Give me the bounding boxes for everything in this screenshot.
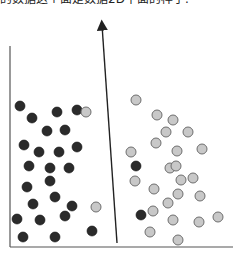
light-point xyxy=(172,146,182,156)
scatter-diagram xyxy=(0,0,247,256)
light-point xyxy=(183,127,193,137)
dark-point xyxy=(64,163,74,173)
dark-point xyxy=(87,226,97,236)
dark-point xyxy=(67,201,77,211)
dark-point xyxy=(42,126,52,136)
light-point xyxy=(195,191,205,201)
dark-class-points xyxy=(12,101,146,242)
light-point xyxy=(161,127,171,137)
dark-point xyxy=(18,232,28,242)
light-point xyxy=(188,173,198,183)
light-point xyxy=(91,202,101,212)
dark-point xyxy=(19,140,29,150)
dark-point xyxy=(72,142,82,152)
light-point xyxy=(145,227,155,237)
dark-point xyxy=(60,125,70,135)
dark-point xyxy=(45,163,55,173)
dark-point xyxy=(60,211,70,221)
light-point xyxy=(171,161,181,171)
light-point xyxy=(81,107,91,117)
light-point xyxy=(197,144,207,154)
separator-line xyxy=(102,25,117,243)
light-point xyxy=(126,147,136,157)
light-point xyxy=(130,176,140,186)
light-point xyxy=(149,184,159,194)
light-point xyxy=(163,198,173,208)
light-point xyxy=(176,175,186,185)
separator-arrow xyxy=(102,25,117,243)
light-point xyxy=(168,115,178,125)
dark-point xyxy=(24,161,34,171)
dark-point xyxy=(28,199,38,209)
dark-point xyxy=(27,113,37,123)
light-point xyxy=(152,110,162,120)
dark-point xyxy=(22,182,32,192)
light-class-points xyxy=(81,95,223,245)
dark-point xyxy=(72,105,82,115)
dark-point xyxy=(50,232,60,242)
dark-point xyxy=(54,147,64,157)
light-point xyxy=(173,189,183,199)
dark-point xyxy=(45,176,55,186)
dark-point xyxy=(50,192,60,202)
light-point xyxy=(173,235,183,245)
light-point xyxy=(168,215,178,225)
dark-point xyxy=(35,215,45,225)
dark-point xyxy=(12,214,22,224)
light-point xyxy=(131,95,141,105)
light-point xyxy=(194,217,204,227)
dark-point xyxy=(136,210,146,220)
light-point xyxy=(148,206,158,216)
dark-point xyxy=(131,161,141,171)
dark-point xyxy=(52,107,62,117)
dark-point xyxy=(34,147,44,157)
light-point xyxy=(151,138,161,148)
dark-point xyxy=(15,101,25,111)
light-point xyxy=(213,212,223,222)
